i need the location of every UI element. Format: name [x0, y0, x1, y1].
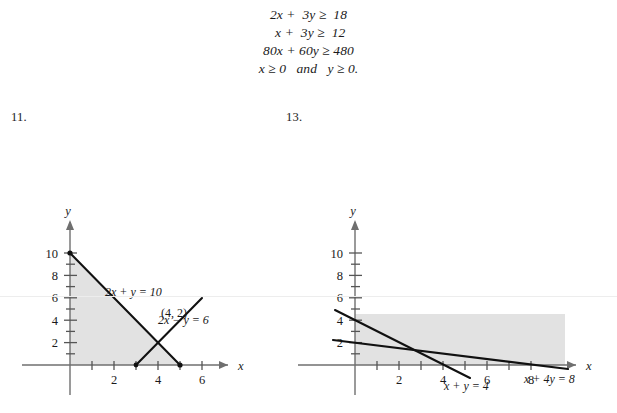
x-axis-label-11: x [237, 359, 244, 373]
x-axis-arrow-13 [567, 361, 576, 369]
system-of-inequalities: 2x + 3y ≥ 18 x + 3y ≥ 12 80x + 60y ≥ 480… [0, 6, 617, 78]
graph-problem-11: 2 4 6 2 4 6 8 10 x y 2x + y = 10 2x − y … [0, 100, 270, 400]
inequality-row-2: x + 3y ≥ 12 [0, 24, 617, 42]
y-tick-label-13-8: 8 [337, 269, 343, 283]
inequality-row-4: x ≥ 0 and y ≥ 0. [0, 60, 617, 78]
y-tick-label-8: 8 [52, 269, 58, 283]
y-tick-label-6: 6 [52, 291, 58, 305]
y-tick-label-13-4: 4 [337, 314, 344, 328]
line-label-x-plus-y-eq-4: x + y = 4 [443, 379, 489, 393]
line-label-2x-plus-y-eq-10: 2x + y = 10 [105, 285, 162, 299]
y-axis-arrow-11 [66, 220, 74, 230]
y-axis-label-11: y [63, 204, 71, 218]
feasible-region-13 [355, 314, 565, 365]
y-tick-label-13-6: 6 [337, 291, 343, 305]
figure-page: 2x + 3y ≥ 18 x + 3y ≥ 12 80x + 60y ≥ 480… [0, 0, 617, 413]
y-axis-label-13: y [348, 204, 356, 218]
y-tick-label-4: 4 [52, 314, 59, 328]
y-tick-label-10: 10 [46, 247, 59, 261]
y-tick-label-13-2: 2 [337, 336, 343, 350]
x-axis-label-13: x [585, 359, 592, 373]
y-axis-arrow-13 [351, 220, 359, 230]
x-tick-label-4: 4 [155, 373, 162, 387]
endpoint-dot-3-0 [134, 363, 139, 368]
inequality-row-1: 2x + 3y ≥ 18 [0, 6, 617, 24]
x-axis-arrow-11 [219, 361, 228, 369]
graph-problem-13: 2 4 6 8 2 4 6 8 10 x y x + y = 4 x + 4y … [276, 100, 617, 400]
inequality-row-3: 80x + 60y ≥ 480 [0, 42, 617, 60]
x-tick-label-6: 6 [199, 373, 205, 387]
y-tick-label-2: 2 [52, 336, 58, 350]
x-tick-label-2: 2 [111, 373, 117, 387]
y-tick-label-13-10: 10 [331, 247, 344, 261]
line-label-x-plus-4y-eq-8: x + 4y = 8 [523, 372, 575, 386]
intersection-point-label-11: (4, 2) [161, 306, 187, 320]
endpoint-dot-0-10 [67, 250, 72, 255]
endpoint-dot-5-0 [177, 362, 182, 367]
x-tick-label-13-2: 2 [396, 373, 402, 387]
